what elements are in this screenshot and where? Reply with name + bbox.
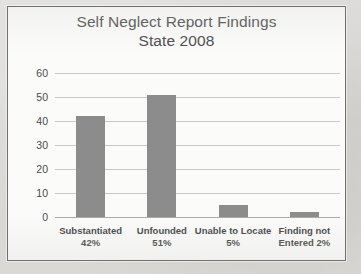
y-tick-label: 30 xyxy=(36,139,48,151)
bar xyxy=(147,95,176,217)
y-tick-label: 40 xyxy=(36,115,48,127)
bar xyxy=(219,205,248,217)
y-tick-label: 50 xyxy=(36,91,48,103)
bar xyxy=(290,212,319,217)
chart-title: Self Neglect Report Findings State 2008 xyxy=(8,12,345,50)
x-axis-line xyxy=(55,217,340,218)
x-tick-label: Unable to Locate 5% xyxy=(194,225,273,249)
y-tick-label: 0 xyxy=(42,211,48,223)
x-tick-label: Substantiated 42% xyxy=(51,225,130,249)
x-tick-label: Finding not Entered 2% xyxy=(265,225,344,249)
gridline xyxy=(55,73,340,74)
y-tick-label: 60 xyxy=(36,67,48,79)
chart-frame: Self Neglect Report Findings State 2008 … xyxy=(7,6,346,261)
plot-area: 0102030405060 Substantiated 42%Unfounded… xyxy=(55,73,340,217)
gridline xyxy=(55,97,340,98)
bar xyxy=(76,116,105,217)
y-tick-label: 20 xyxy=(36,163,48,175)
y-tick-label: 10 xyxy=(36,187,48,199)
x-tick-label: Unfounded 51% xyxy=(122,225,201,249)
